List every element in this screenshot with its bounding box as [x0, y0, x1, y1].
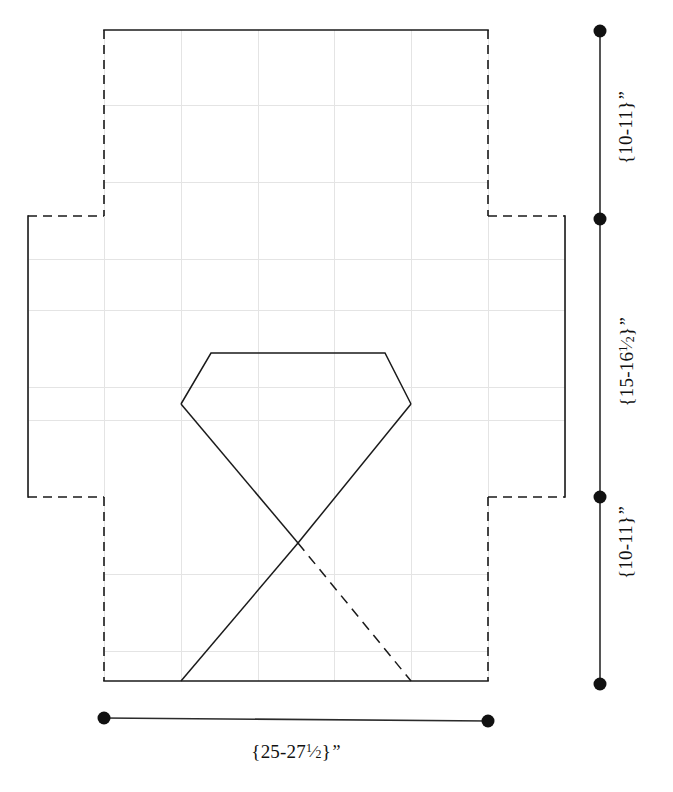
- dimension-label-bottom-flap: {10-11}”: [616, 483, 635, 603]
- dimension-dot-bottom: [594, 678, 607, 691]
- blank-layout-drawing: [0, 0, 673, 792]
- dimension-dot-top: [594, 25, 607, 38]
- dimension-label-overall-width: {25-271⁄2}”: [104, 742, 488, 762]
- gem-outline: [181, 353, 411, 543]
- fraction-width: 1⁄2: [306, 742, 322, 761]
- horizontal-dimension-line: [104, 718, 488, 721]
- dimension-dot-right: [482, 715, 495, 728]
- blank-outline-dashed-folds: [28, 30, 565, 681]
- inch-mark-bottom: ”: [616, 506, 636, 516]
- dimension-dot-lower-mid: [594, 491, 607, 504]
- construction-line-solid: [181, 543, 298, 681]
- dimension-dot-left: [98, 712, 111, 725]
- dimension-dot-upper-mid: [594, 213, 607, 226]
- blank-outline-solid: [28, 30, 565, 681]
- dimension-label-middle-panel: {15-161⁄2}”: [617, 277, 637, 447]
- dimension-label-top-flap: {10-11}”: [616, 68, 635, 188]
- diagram-canvas: {10-11}” {15-161⁄2}” {10-11}” {25-271⁄2}…: [0, 0, 673, 792]
- construction-line-dashed: [298, 543, 411, 681]
- inch-mark-width: ”: [331, 742, 341, 762]
- inch-mark-top: ”: [616, 91, 636, 101]
- fraction-slash-middle: ⁄: [617, 342, 636, 345]
- construction-grid: [28, 30, 565, 681]
- inch-mark-middle: ”: [617, 317, 637, 327]
- fraction-middle: 1⁄2: [617, 336, 636, 352]
